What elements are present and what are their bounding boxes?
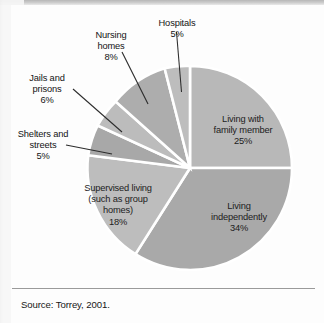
slice-label-line-2: (such as group [66, 194, 170, 205]
slice-label-living-independently: Living independently 34% [192, 201, 286, 235]
slice-label-line-1: Living [192, 201, 286, 212]
slice-label-line-1: Nursing [80, 30, 142, 41]
slice-label-line-2: homes [80, 41, 142, 52]
slice-label-line-3: homes) [66, 205, 170, 216]
slice-label-line-2: prisons [14, 84, 80, 95]
slice-label-line-2: independently [192, 212, 286, 223]
slice-value: 25% [196, 136, 290, 147]
slice-label-shelters-and-streets: Shelters and streets 5% [5, 129, 81, 163]
slice-value: 5% [144, 29, 210, 40]
slice-value: 6% [14, 95, 80, 106]
slice-label-jails-and-prisons: Jails and prisons 6% [14, 73, 80, 107]
slice-label-line-1: Shelters and [5, 129, 81, 140]
slice-value: 8% [80, 52, 142, 63]
slice-value: 5% [5, 151, 81, 162]
slice-label-nursing-homes: Nursing homes 8% [80, 30, 142, 64]
plot-area: Living with family member 25% Living ind… [0, 5, 324, 284]
source-note: Source: Torrey, 2001. [21, 299, 110, 311]
slice-label-line-1: Supervised living [66, 183, 170, 194]
footer-divider [12, 288, 315, 289]
slice-label-line-2: family member [196, 125, 290, 136]
slice-label-hospitals: Hospitals 5% [144, 18, 210, 40]
slice-label-supervised-living: Supervised living (such as group homes) … [66, 183, 170, 228]
slice-label-line-1: Hospitals [144, 18, 210, 29]
slice-value: 34% [192, 223, 286, 234]
pie-slices [87, 66, 292, 270]
slice-label-line-2: streets [5, 140, 81, 151]
pie-chart-figure: Living with family member 25% Living ind… [0, 0, 324, 323]
slice-value: 18% [66, 217, 170, 228]
slice-label-living-with-family-member: Living with family member 25% [196, 114, 290, 148]
slice-label-line-1: Living with [196, 114, 290, 125]
slice-label-line-1: Jails and [14, 73, 80, 84]
